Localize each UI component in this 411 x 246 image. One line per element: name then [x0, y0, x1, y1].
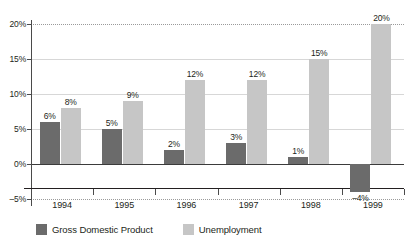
legend-swatch-icon-unemployment	[183, 224, 194, 235]
x-axis-label-1996: 1996	[155, 200, 217, 210]
bar-chart: 6%8%5%9%2%12%3%12%1%15%–4%20% 20%15%10%5…	[0, 0, 411, 246]
y-axis-line	[31, 20, 32, 206]
y-axis-tick	[27, 129, 32, 130]
gridline-0	[31, 164, 404, 165]
bar-unemployment-1996[interactable]	[185, 80, 205, 164]
x-axis-tick	[218, 189, 219, 195]
y-axis-tick-label: 0%	[0, 159, 26, 169]
gridline-pale-10	[31, 94, 404, 95]
gridline-20	[31, 24, 404, 25]
y-axis-tick-label: 15%	[0, 54, 26, 64]
y-axis-tick	[27, 164, 32, 165]
plot-area: 6%8%5%9%2%12%3%12%1%15%–4%20%	[31, 24, 404, 199]
bar-gdp-1998[interactable]	[288, 157, 308, 164]
chart-legend: Gross Domestic Product Unemployment	[36, 224, 261, 235]
y-axis-tick-label: 10%	[0, 89, 26, 99]
legend-item-gross-domestic-product[interactable]: Gross Domestic Product	[36, 224, 153, 235]
x-axis-tick	[342, 189, 343, 195]
legend-label-gdp: Gross Domestic Product	[52, 224, 153, 235]
y-axis-tick	[27, 59, 32, 60]
gridline-pale-5	[31, 129, 404, 130]
bar-gdp-1994[interactable]	[40, 122, 60, 164]
x-axis-tick	[93, 189, 94, 195]
bar-value-label: 8%	[55, 97, 87, 107]
bar-value-label: 5%	[96, 118, 128, 128]
chart-title-cropped	[0, 0, 411, 7]
x-axis-label-1995: 1995	[93, 200, 155, 210]
bar-unemployment-1997[interactable]	[247, 80, 267, 164]
y-axis-tick-label: –5%	[0, 194, 26, 204]
bar-value-label: 20%	[365, 13, 397, 23]
bar-unemployment-1995[interactable]	[123, 101, 143, 164]
legend-swatch-icon-gdp	[36, 224, 47, 235]
bar-value-label: 15%	[303, 48, 335, 58]
bar-gdp-1999[interactable]	[350, 164, 370, 192]
bar-unemployment-1999[interactable]	[371, 24, 391, 164]
x-axis-label-1998: 1998	[280, 200, 342, 210]
y-axis-tick	[27, 24, 32, 25]
y-axis-tick	[27, 94, 32, 95]
bar-value-label: 3%	[220, 132, 252, 142]
x-axis-tick	[404, 189, 405, 195]
bar-gdp-1995[interactable]	[102, 129, 122, 164]
x-axis-label-1994: 1994	[31, 200, 93, 210]
bar-value-label: 1%	[282, 146, 314, 156]
bar-gdp-1996[interactable]	[164, 150, 184, 164]
x-axis-tick	[155, 189, 156, 195]
bar-value-label: 6%	[34, 111, 66, 121]
bar-value-label: 12%	[179, 69, 211, 79]
gridline-pale-15	[31, 59, 404, 60]
y-axis-tick-label: 20%	[0, 19, 26, 29]
bar-gdp-1997[interactable]	[226, 143, 246, 164]
zero-baseline	[24, 188, 404, 189]
bar-value-label: –4%	[344, 193, 376, 203]
legend-label-unemployment: Unemployment	[199, 224, 262, 235]
x-axis-tick	[280, 189, 281, 195]
x-axis-label-1997: 1997	[218, 200, 280, 210]
y-axis-tick-label: 5%	[0, 124, 26, 134]
bar-value-label: 2%	[158, 139, 190, 149]
bar-value-label: 12%	[241, 69, 273, 79]
legend-item-unemployment[interactable]: Unemployment	[183, 224, 262, 235]
bar-value-label: 9%	[117, 90, 149, 100]
